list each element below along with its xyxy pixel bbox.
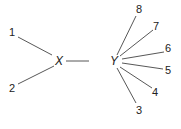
node-7-label: 7 xyxy=(153,20,159,32)
node-5-label: 5 xyxy=(165,64,171,76)
node-2-label: 2 xyxy=(9,82,15,94)
node-y-label: Y xyxy=(110,54,119,68)
edge-y-5 xyxy=(122,63,163,69)
node-x-label: X xyxy=(54,54,64,68)
edge-y-3 xyxy=(117,68,136,103)
edge-y-8 xyxy=(117,16,136,55)
node-8-label: 8 xyxy=(136,3,142,15)
node-6-label: 6 xyxy=(165,42,171,54)
edge-y-6 xyxy=(122,52,164,59)
tree-diagram: X Y 1 2 3 4 5 6 7 8 xyxy=(0,0,181,129)
edge-x-1 xyxy=(18,37,52,55)
node-1-label: 1 xyxy=(9,26,15,38)
node-4-label: 4 xyxy=(152,86,158,98)
edge-y-7 xyxy=(120,30,153,56)
node-3-label: 3 xyxy=(136,104,142,116)
edge-x-2 xyxy=(18,66,54,84)
edge-y-4 xyxy=(120,67,152,88)
